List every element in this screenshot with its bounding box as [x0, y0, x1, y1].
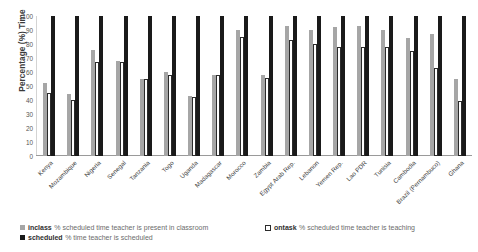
y-axis-tick: 40 — [26, 97, 33, 104]
x-axis-label: Togo — [160, 159, 175, 174]
x-axis-label-cell: Morocco — [230, 157, 254, 217]
x-axis-label: Ghana — [447, 159, 465, 177]
bar-group — [327, 16, 351, 156]
legend-key: inclass — [28, 224, 52, 231]
bar-scheduled — [51, 16, 55, 156]
bar-scheduled — [172, 16, 176, 156]
legend-item-inclass: inclass% scheduled time teacher is prese… — [20, 224, 265, 231]
bar-scheduled — [148, 16, 152, 156]
bar-scheduled — [269, 16, 273, 156]
bar-group — [182, 16, 206, 156]
y-axis-tick: 20 — [26, 125, 33, 132]
bar-scheduled — [389, 16, 393, 156]
bar-scheduled — [244, 16, 248, 156]
y-axis-tick: 70 — [26, 55, 33, 62]
bar-group — [85, 16, 109, 156]
x-axis-label: Zambia — [252, 159, 272, 179]
bar-scheduled — [365, 16, 369, 156]
bar-group — [400, 16, 424, 156]
x-axis-label-cell: Yemen Rep. — [327, 157, 351, 217]
x-axis-label-cell: Tanzania — [134, 157, 158, 217]
legend-row: inclass% scheduled time teacher is prese… — [20, 224, 470, 231]
x-axis-label-cell: Lebanon — [303, 157, 327, 217]
legend-item-ontask: ontask% scheduled time teacher is teachi… — [265, 224, 415, 231]
y-axis-tick: 100 — [22, 13, 33, 20]
y-axis-tick: 0 — [29, 153, 33, 160]
bar-group — [448, 16, 472, 156]
y-axis-tick: 80 — [26, 41, 33, 48]
y-axis-tick: 90 — [26, 27, 33, 34]
bar-group — [230, 16, 254, 156]
bar-group — [424, 16, 448, 156]
bar-group — [206, 16, 230, 156]
legend-item-scheduled: scheduled% time teacher is scheduled — [20, 234, 265, 241]
y-axis-tick: 60 — [26, 69, 33, 76]
legend-swatch-icon — [265, 225, 271, 231]
legend-row: scheduled% time teacher is scheduled — [20, 234, 470, 241]
legend-swatch-icon — [20, 235, 25, 240]
bar-group — [110, 16, 134, 156]
bar-group — [61, 16, 85, 156]
y-axis-tick: 50 — [26, 83, 33, 90]
bar-scheduled — [462, 16, 466, 156]
plot-area: 1009080706050403020100 — [36, 16, 472, 156]
x-axis-label-cell: Uganda — [182, 157, 206, 217]
x-axis-label: Uganda — [178, 159, 199, 180]
bar-scheduled — [124, 16, 128, 156]
x-axis-label-cell: Senegal — [110, 157, 134, 217]
bar-group — [279, 16, 303, 156]
x-axis-label-cell: Ghana — [448, 157, 472, 217]
x-axis-label: Kenya — [36, 159, 54, 177]
bar-scheduled — [341, 16, 345, 156]
chart-legend: inclass% scheduled time teacher is prese… — [20, 224, 470, 243]
x-axis-label-cell: Egypt Arab Rep. — [279, 157, 303, 217]
bar-scheduled — [317, 16, 321, 156]
y-axis-tick: 10 — [26, 139, 33, 146]
bar-scheduled — [293, 16, 297, 156]
y-axis-tick: 30 — [26, 111, 33, 118]
x-axis-label-cell: Togo — [158, 157, 182, 217]
bar-group — [134, 16, 158, 156]
bar-group — [303, 16, 327, 156]
x-axis-label-cell: Mozambique — [61, 157, 85, 217]
bar-scheduled — [414, 16, 418, 156]
bar-group — [255, 16, 279, 156]
bar-scheduled — [220, 16, 224, 156]
x-axis-label-cell: Tunisia — [375, 157, 399, 217]
legend-description: % scheduled time teacher is present in c… — [54, 224, 208, 231]
x-axis-label-cell: Nigeria — [85, 157, 109, 217]
x-axis-label-cell: Brazil (Pernambuco) — [424, 157, 448, 217]
legend-swatch-icon — [20, 225, 25, 230]
bar-groups — [37, 16, 472, 156]
x-axis-label: Nigeria — [83, 159, 102, 178]
x-axis-label: Tunisia — [373, 159, 392, 178]
x-axis-labels: KenyaMozambiqueNigeriaSenegalTanzaniaTog… — [37, 157, 472, 217]
legend-key: ontask — [274, 224, 297, 231]
bar-group — [158, 16, 182, 156]
bar-group — [351, 16, 375, 156]
bar-group — [375, 16, 399, 156]
legend-description: % scheduled time teacher is teaching — [299, 224, 415, 231]
legend-description: % time teacher is scheduled — [65, 234, 153, 241]
bar-group — [37, 16, 61, 156]
legend-key: scheduled — [28, 234, 63, 241]
bar-scheduled — [75, 16, 79, 156]
x-axis-label-cell: Lao PDR — [351, 157, 375, 217]
bar-chart: Percentage (%) Time 10090807060504030201… — [0, 0, 478, 252]
bar-scheduled — [438, 16, 442, 156]
x-axis-label-cell: Madagascar — [206, 157, 230, 217]
bar-scheduled — [99, 16, 103, 156]
bar-scheduled — [196, 16, 200, 156]
